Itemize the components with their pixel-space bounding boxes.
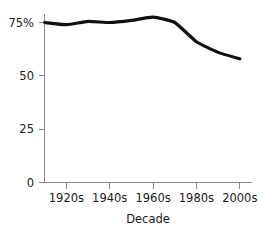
y-tick-label-75: 75% bbox=[8, 16, 34, 30]
y-tick-label-0: 0 bbox=[27, 176, 34, 190]
data-line-series-0 bbox=[45, 17, 240, 59]
x-tick-label-1940s: 1940s bbox=[92, 191, 127, 205]
x-tick-label-1980s: 1980s bbox=[179, 191, 214, 205]
line-chart: 0 25 50 75% 1920s 1940s 1960s 1980s 2000… bbox=[0, 0, 264, 235]
x-tick-label-1960s: 1960s bbox=[135, 191, 170, 205]
x-axis-title: Decade bbox=[126, 212, 170, 226]
y-tick-label-25: 25 bbox=[19, 122, 34, 136]
y-tick-label-50: 50 bbox=[19, 69, 34, 83]
x-tick-label-1920s: 1920s bbox=[49, 191, 84, 205]
x-tick-label-2000s: 2000s bbox=[222, 191, 257, 205]
chart-canvas: 0 25 50 75% 1920s 1940s 1960s 1980s 2000… bbox=[0, 0, 264, 235]
